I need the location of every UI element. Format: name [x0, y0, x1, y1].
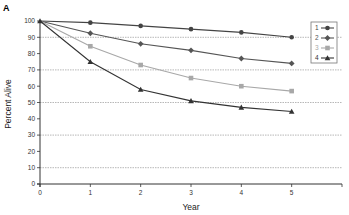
legend-marker [325, 26, 330, 31]
series-group [37, 18, 294, 114]
y-tick-label: 80 [28, 50, 36, 57]
y-tick-label: 10 [28, 164, 36, 171]
data-point-1-3 [189, 27, 194, 32]
y-tick-label: 20 [28, 148, 36, 155]
data-point-2-5 [289, 60, 295, 66]
x-tick-label: 3 [189, 189, 193, 196]
x-axis-title: Year [182, 202, 199, 212]
legend-label: 2 [315, 34, 319, 41]
axes [37, 21, 342, 187]
y-tick-label: 60 [28, 83, 36, 90]
data-point-3-2 [138, 63, 143, 68]
y-tick-label: 50 [28, 99, 36, 106]
data-point-2-3 [188, 47, 194, 53]
y-axis-title: Percent Alive [3, 79, 13, 129]
x-tick-label: 5 [290, 189, 294, 196]
data-point-3-5 [289, 89, 294, 94]
data-point-3-3 [189, 76, 194, 81]
data-point-1-4 [239, 30, 244, 35]
x-axis-ticks: 012345 [38, 184, 294, 196]
x-tick-label: 0 [38, 189, 42, 196]
series-line-4 [40, 21, 292, 111]
y-tick-label: 70 [28, 66, 36, 73]
legend-label: 1 [315, 24, 319, 31]
series-3 [40, 21, 294, 93]
legend-label: 4 [315, 54, 319, 61]
y-tick-label: 90 [28, 34, 36, 41]
legend-marker [325, 46, 330, 51]
series-line-3 [40, 21, 292, 91]
panel-label: A [3, 3, 10, 13]
data-point-1-5 [289, 35, 294, 40]
y-tick-label: 40 [28, 115, 36, 122]
legend-label: 3 [315, 44, 319, 51]
y-axis-ticks: 0102030405060708090100 [24, 17, 40, 187]
survival-chart: A 0102030405060708090100 012345 Year Per… [0, 0, 349, 215]
y-tick-label: 0 [31, 180, 35, 187]
data-point-1-1 [88, 20, 93, 25]
data-point-3-1 [88, 44, 93, 49]
y-tick-label: 30 [28, 131, 36, 138]
data-point-1-2 [138, 24, 143, 29]
series-4 [40, 21, 294, 114]
data-point-2-2 [138, 41, 144, 47]
x-tick-label: 1 [89, 189, 93, 196]
x-tick-label: 2 [139, 189, 143, 196]
data-point-2-1 [87, 30, 93, 36]
data-point-4-2 [138, 87, 144, 92]
data-point-2-4 [238, 56, 244, 62]
data-point-3-4 [239, 84, 244, 89]
legend: 1234 [311, 22, 337, 63]
y-tick-label: 100 [24, 17, 35, 24]
series-line-1 [40, 21, 292, 37]
x-tick-label: 4 [240, 189, 244, 196]
